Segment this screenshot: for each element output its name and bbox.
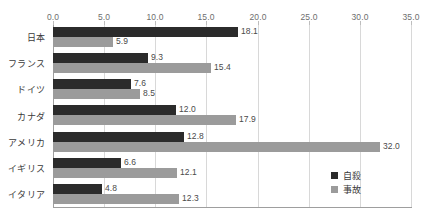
bar-value-label: 18.1 xyxy=(241,26,258,36)
category-label-日本: 日本 xyxy=(0,31,53,44)
category-label-フランス: フランス xyxy=(0,57,53,70)
category-label-カナダ: カナダ xyxy=(0,110,53,123)
bar-value-label: 5.9 xyxy=(116,36,128,46)
bar-事故-日本[interactable] xyxy=(53,37,113,47)
bar-value-label: 8.5 xyxy=(143,88,155,98)
x-tick-mark xyxy=(53,21,54,25)
bar-value-label: 4.8 xyxy=(105,183,117,193)
x-tick-mark xyxy=(155,21,156,25)
category-band: 7.68.5 xyxy=(53,76,411,102)
legend-label: 事故 xyxy=(343,183,361,196)
bar-事故-カナダ[interactable] xyxy=(53,115,236,125)
bar-value-label: 12.1 xyxy=(180,167,197,177)
bar-value-label: 17.9 xyxy=(239,114,256,124)
bar-value-label: 15.4 xyxy=(214,62,231,72)
category-label-アメリカ: アメリカ xyxy=(0,136,53,149)
x-tick-mark xyxy=(309,21,310,25)
bar-value-label: 6.6 xyxy=(124,157,136,167)
legend-item-自殺[interactable]: 自殺 xyxy=(331,168,361,182)
x-axis-tick-labels: 0.05.010.015.020.025.030.035.0 xyxy=(0,12,432,23)
category-label-ドイツ: ドイツ xyxy=(0,83,53,96)
legend-label: 自殺 xyxy=(343,169,361,182)
category-label-イタリア: イタリア xyxy=(0,188,53,201)
bar-chart: 0.05.010.015.020.025.030.035.0 18.15.99.… xyxy=(0,0,432,221)
bar-value-label: 32.0 xyxy=(383,141,400,151)
x-tick-mark xyxy=(206,21,207,25)
legend-swatch-icon xyxy=(331,172,338,179)
x-tick-mark xyxy=(258,21,259,25)
bar-value-label: 12.3 xyxy=(182,193,199,203)
bar-自殺-日本[interactable] xyxy=(53,27,238,37)
bar-事故-イギリス[interactable] xyxy=(53,168,177,178)
bar-value-label: 12.8 xyxy=(187,131,204,141)
x-axis-line xyxy=(53,207,412,208)
bar-事故-アメリカ[interactable] xyxy=(53,142,380,152)
bar-事故-イタリア[interactable] xyxy=(53,194,179,204)
gridline-35.0 xyxy=(411,24,412,207)
category-label-イギリス: イギリス xyxy=(0,162,53,175)
chart-legend: 自殺事故 xyxy=(331,168,361,196)
category-band: 12.017.9 xyxy=(53,102,411,128)
bar-value-label: 7.6 xyxy=(134,78,146,88)
bar-自殺-アメリカ[interactable] xyxy=(53,132,184,142)
legend-swatch-icon xyxy=(331,186,338,193)
bar-自殺-カナダ[interactable] xyxy=(53,105,176,115)
bar-自殺-ドイツ[interactable] xyxy=(53,79,131,89)
bar-自殺-イギリス[interactable] xyxy=(53,158,121,168)
bar-自殺-イタリア[interactable] xyxy=(53,184,102,194)
bar-事故-ドイツ[interactable] xyxy=(53,89,140,99)
bar-事故-フランス[interactable] xyxy=(53,63,211,73)
bar-value-label: 9.3 xyxy=(151,52,163,62)
category-band: 9.315.4 xyxy=(53,50,411,76)
x-tick-mark xyxy=(104,21,105,25)
bar-value-label: 12.0 xyxy=(179,104,196,114)
bar-自殺-フランス[interactable] xyxy=(53,53,148,63)
category-band: 12.832.0 xyxy=(53,129,411,155)
x-tick-mark xyxy=(411,21,412,25)
category-band: 18.15.9 xyxy=(53,24,411,50)
x-tick-mark xyxy=(360,21,361,25)
legend-item-事故[interactable]: 事故 xyxy=(331,182,361,196)
